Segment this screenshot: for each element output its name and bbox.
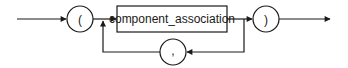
comma-node: , bbox=[160, 39, 186, 65]
comma-label: , bbox=[171, 44, 174, 58]
syntax-diagram: ( component_association ) , bbox=[0, 0, 348, 68]
close-paren-label: ) bbox=[264, 13, 268, 27]
open-paren-label: ( bbox=[78, 13, 82, 27]
component-association-node: component_association bbox=[109, 6, 235, 32]
close-paren-node: ) bbox=[253, 6, 279, 32]
component-association-label: component_association bbox=[109, 12, 235, 26]
open-paren-node: ( bbox=[67, 6, 93, 32]
